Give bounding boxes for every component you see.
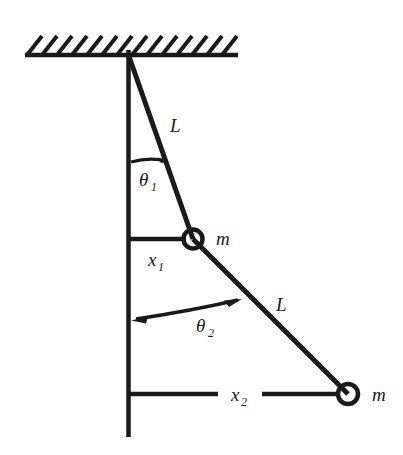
double-pendulum-figure: L L θ 1 θ 2 m m x 1 x 2 [0,0,403,455]
svg-text:θ: θ [139,169,148,190]
svg-text:x: x [147,249,157,270]
rod-2-length-label: L [275,294,287,315]
rod-2 [193,239,348,394]
mass-2-label: m [372,384,386,405]
svg-text:1: 1 [158,260,164,274]
rod-1-length-label: L [169,115,181,136]
svg-text:2: 2 [208,326,214,340]
mass-1-label: m [216,228,230,249]
svg-text:1: 1 [151,180,157,194]
double-angle-arrow-icon [131,299,242,324]
rod-1 [129,55,194,239]
angle-1-label: θ 1 [139,169,157,194]
angle-2-label: θ 2 [196,315,214,340]
svg-text:x: x [230,384,240,405]
svg-text:2: 2 [241,395,247,409]
svg-text:θ: θ [196,315,205,336]
pendulum-diagram-svg: L L θ 1 θ 2 m m x 1 x 2 [0,0,403,455]
x2-label: x 2 [230,384,247,409]
x1-label: x 1 [147,249,164,274]
hatched-support-icon [27,36,237,55]
ceiling-support-group [25,36,238,55]
